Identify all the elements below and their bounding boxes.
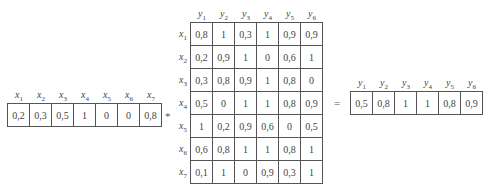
matrix-cell: 1 (235, 46, 257, 69)
matrix-cell: 0,2 (213, 115, 235, 138)
matrix-cell: 1 (235, 138, 257, 161)
matrix-col-label: y1 (191, 8, 213, 22)
matrix-row-label: x2 (173, 51, 187, 65)
matrix-cell: 0,9 (213, 46, 235, 69)
matrix-cell: 0,6 (279, 46, 301, 69)
input-label: x2 (30, 89, 52, 103)
matrix-row: 0,8 1 0,3 1 0,9 0,9 (191, 23, 323, 46)
matrix-row: 1 0,2 0,9 0,6 0 0,5 (191, 115, 323, 138)
input-cell: 0,3 (30, 104, 52, 127)
matrix-cell: 0 (235, 161, 257, 184)
result-label: y2 (373, 77, 395, 91)
matrix-cell: 0,1 (191, 161, 213, 184)
matrix-cell: 0,8 (279, 138, 301, 161)
matrix-col-label: y6 (301, 8, 323, 22)
matrix-row-label: x6 (173, 143, 187, 157)
matrix-cell: 0 (279, 115, 301, 138)
result-cell: 0,5 (351, 92, 373, 115)
input-cell: 0,2 (8, 104, 30, 127)
matrix-col-label: y3 (235, 8, 257, 22)
matrix-cell: 0,5 (191, 92, 213, 115)
matrix-row: 0,3 0,8 0,9 1 0,8 0 (191, 69, 323, 92)
compose-operator: * (165, 110, 171, 122)
matrix-cell: 0,2 (191, 46, 213, 69)
result-label: y3 (395, 77, 417, 91)
matrix-cell: 0 (257, 46, 279, 69)
input-cell: 0 (118, 104, 140, 127)
equals-operator: = (334, 97, 340, 109)
matrix-cell: 0,8 (279, 69, 301, 92)
matrix-cell: 1 (257, 23, 279, 46)
matrix-cell: 1 (257, 69, 279, 92)
input-cell: 0,5 (52, 104, 74, 127)
matrix-row-label: x4 (173, 97, 187, 111)
result-cell: 1 (417, 92, 439, 115)
result-cell: 0,8 (439, 92, 461, 115)
result-vector: 0,5 0,8 1 1 0,8 0,9 (350, 91, 483, 115)
matrix-col-label: y5 (279, 8, 301, 22)
matrix-cell: 0,5 (301, 115, 323, 138)
matrix-cell: 1 (213, 23, 235, 46)
result-label: y4 (417, 77, 439, 91)
matrix-cell: 1 (257, 92, 279, 115)
matrix-cell: 1 (301, 46, 323, 69)
matrix-cell: 0 (213, 92, 235, 115)
matrix-cell: 0,9 (279, 23, 301, 46)
input-label: x5 (96, 89, 118, 103)
result-label: y5 (439, 77, 461, 91)
matrix-cell: 0,3 (191, 69, 213, 92)
matrix-cell: 0,8 (213, 138, 235, 161)
matrix-col-label: y4 (257, 8, 279, 22)
matrix-cell: 1 (301, 161, 323, 184)
input-cell: 0,8 (140, 104, 162, 127)
matrix-row: 0,5 0 1 1 0,8 0,9 (191, 92, 323, 115)
matrix-row-label: x3 (173, 74, 187, 88)
matrix-cell: 1 (301, 138, 323, 161)
matrix-cell: 0,9 (235, 69, 257, 92)
matrix-cell: 0,8 (191, 23, 213, 46)
input-label: x4 (74, 89, 96, 103)
matrix-row-label: x5 (173, 120, 187, 134)
matrix-cell: 0,6 (257, 115, 279, 138)
matrix-row: 0,1 1 0 0,9 0,3 1 (191, 161, 323, 184)
matrix-cell: 0,9 (257, 161, 279, 184)
matrix-row-label: x7 (173, 166, 187, 180)
matrix-cell: 0,3 (235, 23, 257, 46)
matrix-cell: 1 (191, 115, 213, 138)
matrix-col-label: y2 (213, 8, 235, 22)
result-label: y6 (461, 77, 483, 91)
matrix-cell: 0,3 (279, 161, 301, 184)
input-label: x1 (8, 89, 30, 103)
relation-matrix: 0,8 1 0,3 1 0,9 0,9 0,2 0,9 1 0 0,6 1 0,… (190, 22, 323, 184)
result-label: y1 (351, 77, 373, 91)
input-vector: 0,2 0,3 0,5 1 0 0 0,8 (7, 103, 162, 127)
input-cell: 1 (74, 104, 96, 127)
matrix-row-label: x1 (173, 28, 187, 42)
matrix-cell: 0,8 (213, 69, 235, 92)
input-cell: 0 (96, 104, 118, 127)
matrix-cell: 0,9 (235, 115, 257, 138)
matrix-row: 0,2 0,9 1 0 0,6 1 (191, 46, 323, 69)
matrix-cell: 0,9 (301, 92, 323, 115)
result-cell: 1 (395, 92, 417, 115)
input-label: x3 (52, 89, 74, 103)
input-label: x6 (118, 89, 140, 103)
matrix-cell: 0,6 (191, 138, 213, 161)
input-label: x7 (140, 89, 162, 103)
result-cell: 0,8 (373, 92, 395, 115)
matrix-row: 0,6 0,8 1 1 0,8 1 (191, 138, 323, 161)
result-cell: 0,9 (461, 92, 483, 115)
matrix-cell: 1 (257, 138, 279, 161)
matrix-cell: 0,9 (301, 23, 323, 46)
matrix-cell: 0 (301, 69, 323, 92)
matrix-cell: 1 (213, 161, 235, 184)
matrix-cell: 1 (235, 92, 257, 115)
matrix-cell: 0,8 (279, 92, 301, 115)
